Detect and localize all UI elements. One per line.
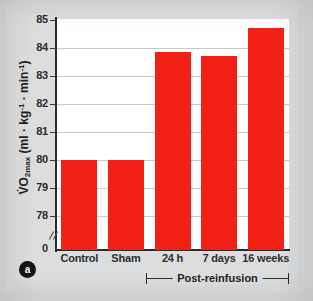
bar <box>155 52 191 250</box>
y-tick-mark-81 <box>50 132 56 133</box>
post-reinfusion-bracket: Post-reinfusion <box>146 272 289 286</box>
y-tick-label-80: 80 <box>36 154 48 165</box>
y-tick-mark-79 <box>50 188 56 189</box>
y-axis-title-unit-close: ) <box>17 60 31 64</box>
panel-letter-badge: a <box>19 261 36 278</box>
y-axis-title-unit-sup2: -1 <box>17 64 26 71</box>
post-reinfusion-bracket-label: Post-reinfusion <box>172 272 263 285</box>
bar <box>108 160 144 250</box>
y-axis-title-unit-sup1: -1 <box>17 104 26 111</box>
y-tick-label-zero: 0 <box>42 243 48 254</box>
x-tick-label: Sham <box>100 253 153 264</box>
x-tick-label: 16 weeks <box>239 253 292 264</box>
y-tick-mark-82 <box>50 104 56 105</box>
bar <box>201 56 237 250</box>
bar <box>61 160 97 250</box>
y-axis-break-icon <box>50 232 59 243</box>
y-axis-title: V̇O2max (ml · kg-1 · min-1) <box>17 18 32 238</box>
y-tick-mark-78 <box>50 216 56 217</box>
x-tick-label: Control <box>53 253 106 264</box>
figure-screenshot: 78798081828384850 V̇O2max (ml · kg-1 · m… <box>0 0 313 301</box>
y-tick-mark-80 <box>50 160 56 161</box>
y-tick-mark-83 <box>50 76 56 77</box>
y-axis-title-subscript: 2max <box>23 157 32 177</box>
y-axis-title-unit-mid: · min <box>17 72 31 104</box>
y-axis-title-vdot: V̇ <box>17 187 31 195</box>
y-tick-label-81: 81 <box>36 126 48 137</box>
y-tick-label-82: 82 <box>36 98 48 109</box>
y-tick-mark-85 <box>50 20 56 21</box>
x-tick-label: 7 days <box>193 253 246 264</box>
y-axis-title-unit-open: (ml · kg <box>17 111 31 157</box>
y-tick-label-83: 83 <box>36 70 48 81</box>
y-tick-mark-84 <box>50 48 56 49</box>
bar <box>248 28 284 250</box>
x-tick-label: 24 h <box>146 253 199 264</box>
y-axis-title-o: O <box>17 177 31 186</box>
y-tick-label-84: 84 <box>36 42 48 53</box>
y-tick-label-79: 79 <box>36 182 48 193</box>
y-tick-label-85: 85 <box>36 14 48 25</box>
y-tick-label-78: 78 <box>36 210 48 221</box>
